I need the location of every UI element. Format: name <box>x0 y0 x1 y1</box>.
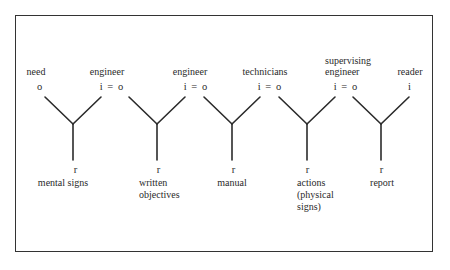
symbol-i-equals-o-1: i = o <box>100 81 124 93</box>
label-reader: reader <box>398 66 423 78</box>
y-connector-5 <box>353 97 409 160</box>
symbol-i-equals-o-3: i = o <box>258 81 282 93</box>
label-engineer-1: engineer <box>90 66 124 78</box>
y-connector-3 <box>204 97 260 160</box>
label-mental-signs: mental signs <box>38 177 88 189</box>
label-written-line2: objectives <box>139 189 180 201</box>
symbol-i: i <box>408 81 412 93</box>
symbol-r-1: r <box>74 164 79 176</box>
symbol-r-5: r <box>380 164 385 176</box>
y-connector-1 <box>45 97 101 160</box>
label-need: need <box>27 66 46 78</box>
label-actions-line2: (physical <box>297 189 334 201</box>
symbol-r-3: r <box>232 164 237 176</box>
label-actions-line3: signs) <box>297 201 321 213</box>
label-supervising-line2: engineer <box>325 66 359 78</box>
symbol-i-equals-o-2: i = o <box>184 81 208 93</box>
symbol-r-4: r <box>306 164 311 176</box>
label-written-line1: written <box>139 177 167 189</box>
y-connector-2 <box>129 97 185 160</box>
symbol-o: o <box>37 81 43 93</box>
y-connectors <box>0 0 450 270</box>
y-connector-4 <box>279 97 335 160</box>
symbol-i-equals-o-4: i = o <box>334 81 358 93</box>
label-report: report <box>370 177 394 189</box>
label-engineer-2: engineer <box>173 66 207 78</box>
symbol-r-2: r <box>157 164 162 176</box>
label-technicians: technicians <box>243 66 288 78</box>
label-manual: manual <box>217 177 246 189</box>
label-actions-line1: actions <box>297 177 325 189</box>
